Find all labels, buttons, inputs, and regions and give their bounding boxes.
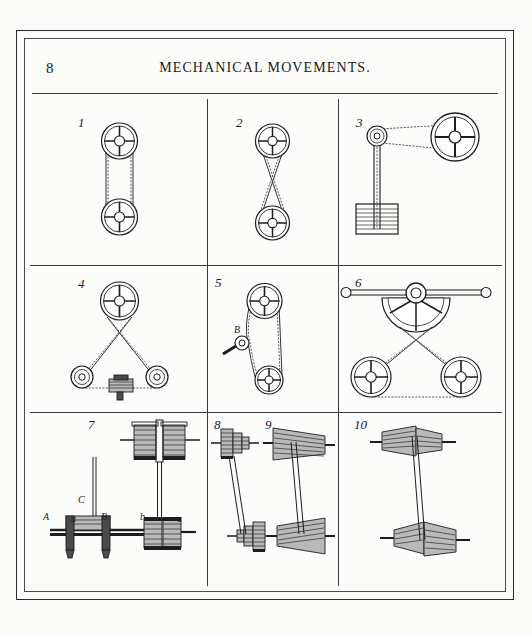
figure-cell-1: 1 [30,99,207,265]
figure-number-1: 1 [78,115,85,131]
figure-number-2: 2 [236,115,243,131]
figure-cell-6: 6 [338,265,502,412]
figure7-label-C: C [78,494,85,505]
page-header: 8 MECHANICAL MOVEMENTS. [32,58,498,88]
figure7-label-b: b [140,511,145,522]
figure-drawing-1 [30,99,207,265]
header-rule [32,93,498,94]
figure-cell-8-9: 8 9 [207,412,338,586]
figure-number-4: 4 [78,276,85,292]
figure-drawing-4 [30,265,207,412]
figure-cell-5: 5 B [207,265,338,412]
figure-number-8: 8 [214,417,221,433]
page-title: MECHANICAL MOVEMENTS. [32,60,498,76]
figure-cell-3: 3 [338,99,502,265]
figure7-label-A: A [43,511,49,522]
figure-cell-10: 10 [338,412,502,586]
figure-plate-grid: 1 2 [30,99,502,586]
figure-cell-4: 4 [30,265,207,412]
figure-number-5: 5 [215,275,222,291]
figure-drawing-6 [338,265,502,412]
figure7-label-a: a [71,513,76,524]
figure5-label-b: B [234,324,240,335]
figure7-label-a-right: a [177,513,182,524]
figure-drawing-10 [338,412,502,586]
figure-drawing-8-9 [207,412,338,586]
figure-number-9: 9 [265,417,272,433]
figure-cell-7: 7 A a B b C a [30,412,207,586]
figure-cell-2: 2 [207,99,338,265]
figure-drawing-2 [207,99,338,265]
figure-drawing-5 [207,265,338,412]
figure-number-7: 7 [88,417,95,433]
book-page: 8 MECHANICAL MOVEMENTS. 1 [0,0,532,636]
figure-number-3: 3 [356,115,363,131]
figure-drawing-7 [30,412,207,586]
figure7-label-B: B [101,511,107,522]
figure-number-6: 6 [355,275,362,291]
figure-number-10: 10 [354,417,367,433]
